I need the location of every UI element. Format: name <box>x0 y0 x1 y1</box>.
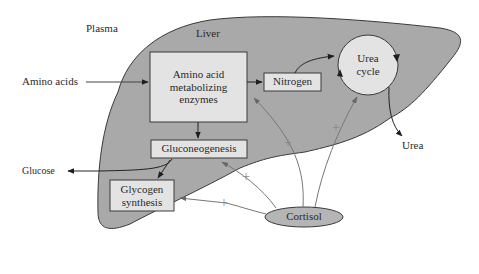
diagram: Plasma Liver Amino acids Amino acid meta… <box>0 0 479 274</box>
plasma-label: Plasma <box>86 22 118 35</box>
diagram-graphics <box>0 0 479 274</box>
amino-acids-label: Amino acids <box>22 75 78 88</box>
urea-cycle-label: Urea cycle <box>338 52 398 77</box>
amino-enzymes-label: Amino acid metabolizing enzymes <box>150 68 247 106</box>
plus-icon-enzymes: + <box>284 135 292 151</box>
nitrogen-label: Nitrogen <box>264 75 321 88</box>
liver-label: Liver <box>196 27 220 40</box>
plus-icon-urea-cycle: + <box>332 120 340 136</box>
urea-cycle-line1: Urea <box>338 52 398 65</box>
gluconeogenesis-label: Gluconeogenesis <box>151 142 247 155</box>
glucose-label: Glucose <box>22 165 55 177</box>
amino-enzymes-line1: Amino acid <box>150 68 247 81</box>
glycogen-synthesis-label: Glycogen synthesis <box>110 183 174 208</box>
cortisol-label: Cortisol <box>265 210 343 223</box>
amino-enzymes-line3: enzymes <box>150 93 247 106</box>
urea-cycle-line2: cycle <box>338 65 398 78</box>
urea-label: Urea <box>402 139 423 152</box>
plus-icon-glycogen: + <box>220 195 228 211</box>
glycogen-line1: Glycogen <box>110 183 174 196</box>
plus-icon-gluconeogenesis: + <box>242 169 250 185</box>
glycogen-line2: synthesis <box>110 196 174 209</box>
amino-enzymes-line2: metabolizing <box>150 81 247 94</box>
